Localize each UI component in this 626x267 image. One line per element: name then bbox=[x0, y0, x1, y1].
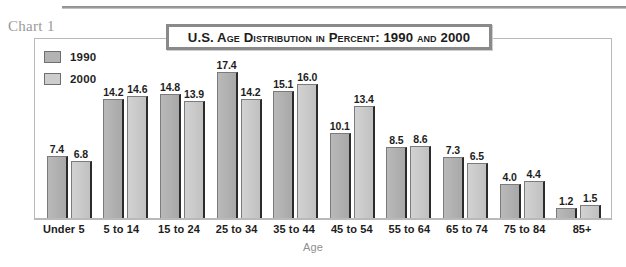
bar-value-label: 7.4 bbox=[50, 143, 64, 155]
x-tick-label: 65 to 74 bbox=[438, 223, 496, 235]
bar-group: 17.414.2 bbox=[211, 39, 268, 218]
bar-2000-45-to-54[interactable]: 13.4 bbox=[354, 106, 375, 218]
chart-title-box: U.S. Age Distribution in Percent: 1990 a… bbox=[166, 24, 492, 50]
bar-1990-35-to-44[interactable]: 15.1 bbox=[273, 91, 294, 218]
legend-item-1990: 1990 bbox=[44, 47, 96, 66]
bar-group: 4.04.4 bbox=[494, 39, 551, 218]
bar-wrap: 7.4 bbox=[45, 156, 69, 218]
legend-label-2000: 2000 bbox=[70, 73, 96, 85]
chart-page: Chart 1 U.S. Age Distribution in Percent… bbox=[0, 0, 626, 267]
bar-group: 10.113.4 bbox=[324, 39, 381, 218]
x-tick-label: Under 5 bbox=[35, 223, 93, 235]
x-tick-label: 15 to 24 bbox=[150, 223, 208, 235]
x-tick-label: 45 to 54 bbox=[323, 223, 381, 235]
bar-value-label: 4.4 bbox=[526, 168, 540, 180]
bar-wrap: 8.5 bbox=[385, 147, 409, 218]
bar-value-label: 14.2 bbox=[241, 86, 261, 98]
bar-value-label: 4.0 bbox=[502, 171, 516, 183]
bar-wrap: 4.0 bbox=[498, 184, 522, 218]
bar-wrap: 14.6 bbox=[126, 96, 150, 219]
bar-1990-45-to-54[interactable]: 10.1 bbox=[330, 133, 351, 218]
bar-value-label: 14.2 bbox=[103, 86, 123, 98]
bar-group: 8.58.6 bbox=[381, 39, 438, 218]
bar-value-label: 16.0 bbox=[297, 71, 317, 83]
x-axis-labels: Under 55 to 1415 to 2425 to 3435 to 4445… bbox=[35, 223, 611, 235]
bar-group: 14.813.9 bbox=[154, 39, 211, 218]
x-tick-label: 55 to 64 bbox=[381, 223, 439, 235]
bar-wrap: 15.1 bbox=[272, 91, 296, 218]
bar-2000-35-to-44[interactable]: 16.0 bbox=[297, 84, 318, 218]
bar-value-label: 10.1 bbox=[330, 120, 350, 132]
bar-2000-5-to-14[interactable]: 14.6 bbox=[127, 96, 148, 219]
bar-value-label: 13.4 bbox=[354, 93, 374, 105]
bar-wrap: 13.9 bbox=[182, 101, 206, 218]
bar-2000-75-to-84[interactable]: 4.4 bbox=[524, 181, 545, 218]
x-tick-label: 5 to 14 bbox=[93, 223, 151, 235]
x-tick-label: 75 to 84 bbox=[496, 223, 554, 235]
bar-2000-under-5[interactable]: 6.8 bbox=[71, 161, 92, 218]
chart-legend: 1990 2000 bbox=[44, 47, 96, 91]
page-title: U.S. Age Distribution in Percent: 1990 a… bbox=[188, 30, 470, 45]
legend-item-2000: 2000 bbox=[44, 69, 96, 88]
page-top-rule bbox=[62, 6, 626, 9]
bar-2000-15-to-24[interactable]: 13.9 bbox=[184, 101, 205, 218]
bar-1990-under-5[interactable]: 7.4 bbox=[47, 156, 68, 218]
bar-groups: 7.46.814.214.614.813.917.414.215.116.010… bbox=[41, 39, 607, 218]
bar-wrap: 13.4 bbox=[352, 106, 376, 218]
bar-group: 15.116.0 bbox=[267, 39, 324, 218]
bar-wrap: 17.4 bbox=[215, 72, 239, 218]
legend-swatch-icon-1990 bbox=[44, 51, 61, 63]
bar-1990-65-to-74[interactable]: 7.3 bbox=[443, 157, 464, 218]
bar-1990-75-to-84[interactable]: 4.0 bbox=[500, 184, 521, 218]
bar-value-label: 14.6 bbox=[127, 83, 147, 95]
bar-wrap: 14.2 bbox=[239, 99, 263, 218]
bar-wrap: 8.6 bbox=[409, 146, 433, 218]
bar-wrap: 14.8 bbox=[158, 94, 182, 218]
bar-1990-15-to-24[interactable]: 14.8 bbox=[160, 94, 181, 218]
bar-wrap: 6.8 bbox=[69, 161, 93, 218]
x-axis-title: Age bbox=[0, 241, 626, 253]
bar-value-label: 13.9 bbox=[184, 88, 204, 100]
bar-2000-55-to-64[interactable]: 8.6 bbox=[410, 146, 431, 218]
plot-area: 7.46.814.214.614.813.917.414.215.116.010… bbox=[35, 39, 611, 219]
bar-value-label: 6.8 bbox=[74, 148, 88, 160]
bar-wrap: 1.2 bbox=[555, 208, 579, 218]
bar-1990-25-to-34[interactable]: 17.4 bbox=[217, 72, 238, 218]
bar-2000-25-to-34[interactable]: 14.2 bbox=[241, 99, 262, 218]
bar-value-label: 15.1 bbox=[273, 78, 293, 90]
legend-swatch-icon-2000 bbox=[44, 73, 61, 85]
bar-value-label: 8.5 bbox=[389, 134, 403, 146]
bar-2000-85+[interactable]: 1.5 bbox=[580, 205, 601, 218]
x-tick-label: 35 to 44 bbox=[265, 223, 323, 235]
bar-value-label: 14.8 bbox=[160, 81, 180, 93]
bar-value-label: 7.3 bbox=[446, 144, 460, 156]
bar-group: 1.21.5 bbox=[550, 39, 607, 218]
bar-value-label: 6.5 bbox=[470, 150, 484, 162]
bar-value-label: 1.5 bbox=[583, 192, 597, 204]
bar-value-label: 17.4 bbox=[217, 59, 237, 71]
bar-2000-65-to-74[interactable]: 6.5 bbox=[467, 163, 488, 218]
x-tick-label: 25 to 34 bbox=[208, 223, 266, 235]
bar-1990-55-to-64[interactable]: 8.5 bbox=[386, 147, 407, 218]
x-tick-label: 85+ bbox=[553, 223, 611, 235]
bar-wrap: 10.1 bbox=[328, 133, 352, 218]
bar-wrap: 7.3 bbox=[441, 157, 465, 218]
bar-wrap: 14.2 bbox=[102, 99, 126, 218]
chart-caption: Chart 1 bbox=[8, 18, 55, 35]
bar-value-label: 1.2 bbox=[559, 195, 573, 207]
bar-group: 7.36.5 bbox=[437, 39, 494, 218]
bar-wrap: 1.5 bbox=[579, 205, 603, 218]
bar-1990-85+[interactable]: 1.2 bbox=[556, 208, 577, 218]
bar-group: 14.214.6 bbox=[98, 39, 155, 218]
bar-wrap: 16.0 bbox=[296, 84, 320, 218]
legend-label-1990: 1990 bbox=[70, 51, 96, 63]
bar-1990-5-to-14[interactable]: 14.2 bbox=[103, 99, 124, 218]
bar-wrap: 6.5 bbox=[465, 163, 489, 218]
bar-wrap: 4.4 bbox=[522, 181, 546, 218]
bar-value-label: 8.6 bbox=[413, 133, 427, 145]
x-axis-baseline bbox=[35, 218, 611, 219]
